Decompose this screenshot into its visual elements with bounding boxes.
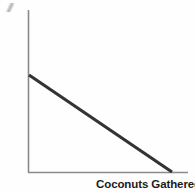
ppf-line: [29, 75, 172, 172]
x-axis-label: Coconuts Gathered: [96, 178, 195, 191]
plot-area: [0, 0, 195, 193]
ppf-chart-figure: Fish Caught Coconuts Gathered: [0, 0, 195, 193]
